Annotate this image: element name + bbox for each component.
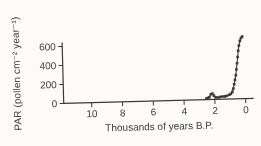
data-point	[237, 49, 240, 52]
data-point	[234, 74, 237, 77]
data-point	[208, 96, 211, 99]
y-tick-labels: 0200400600	[39, 41, 58, 109]
data-point	[241, 35, 244, 38]
data-point	[236, 62, 239, 65]
x-tick-label: 4	[181, 106, 187, 117]
data-point	[219, 96, 222, 99]
data-point	[221, 95, 224, 98]
x-axis-label: Thousands of years B.P.	[105, 119, 213, 133]
x-tick-labels: 1086420	[86, 104, 249, 119]
x-tick-label: 8	[120, 107, 126, 118]
data-point	[236, 56, 239, 59]
y-axis-line	[62, 42, 64, 104]
data-point	[217, 96, 220, 99]
pollen-accumulation-figure: 0200400600 1086420 Thousands of years B.…	[0, 0, 261, 146]
data-point	[235, 68, 238, 71]
plot-area: 0200400600 1086420 Thousands of years B.…	[9, 11, 254, 136]
y-axis-label: PAR (pollen cm⁻² year⁻¹)	[9, 17, 23, 131]
data-point	[233, 83, 236, 86]
data-point	[226, 94, 229, 97]
x-tick-label: 6	[151, 106, 157, 117]
y-tick-label: 200	[40, 79, 57, 90]
data-point	[234, 79, 237, 82]
data-point	[232, 87, 235, 90]
data-point	[238, 44, 241, 47]
x-tick-label: 2	[212, 105, 218, 116]
par-chart: 0200400600 1086420 Thousands of years B.…	[0, 0, 261, 146]
data-point	[239, 40, 242, 43]
data-point	[214, 96, 217, 99]
y-tick-label: 400	[39, 60, 56, 71]
data-point	[231, 91, 234, 94]
data-point	[223, 95, 226, 98]
data-markers	[203, 35, 245, 100]
x-tick-label: 10	[86, 108, 98, 119]
x-tick-label: 0	[243, 104, 249, 115]
y-tick-label: 600	[39, 41, 56, 52]
y-tick-label: 0	[52, 98, 58, 109]
